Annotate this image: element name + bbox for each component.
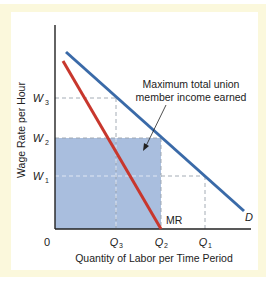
annotation-line-2: member income earned <box>136 91 247 103</box>
svg-text:W: W <box>33 92 45 104</box>
y-tick-w3: W 3 <box>33 92 49 106</box>
svg-text:Q: Q <box>110 236 119 248</box>
svg-text:1: 1 <box>208 242 212 249</box>
y-tick-w1: W 1 <box>33 170 49 184</box>
svg-text:W: W <box>33 132 45 144</box>
demand-label: D <box>245 211 253 223</box>
x-tick-q2: Q 2 <box>155 236 168 249</box>
mr-label: MR <box>166 214 183 226</box>
svg-text:Q: Q <box>155 236 164 248</box>
shaded-income-area <box>55 138 161 229</box>
x-tick-q1: Q 1 <box>199 236 212 249</box>
labor-market-chart: Maximum total union member income earned… <box>0 0 277 285</box>
svg-text:Q: Q <box>199 236 208 248</box>
x-axis-title: Quantity of Labor per Time Period <box>75 252 233 264</box>
svg-text:3: 3 <box>45 99 49 106</box>
svg-text:2: 2 <box>45 139 49 146</box>
y-axis-title: Wage Rate per Hour <box>15 82 27 178</box>
y-tick-w2: W 2 <box>33 132 49 146</box>
svg-text:W: W <box>33 170 45 182</box>
origin-label: 0 <box>44 236 50 248</box>
svg-text:1: 1 <box>45 177 49 184</box>
svg-text:3: 3 <box>119 242 123 249</box>
x-tick-q3: Q 3 <box>110 236 123 249</box>
svg-text:2: 2 <box>164 242 168 249</box>
annotation-line-1: Maximum total union <box>143 78 240 90</box>
